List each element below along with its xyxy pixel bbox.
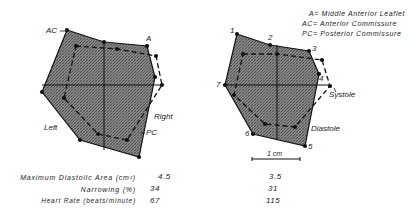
label-point-3: 3 [312, 45, 316, 53]
label-point-6: 6 [245, 130, 249, 138]
right-panel [223, 32, 336, 161]
vertex-dot [251, 132, 255, 136]
vertex-dot [125, 138, 129, 142]
stat-left-narrowing: 34 [150, 185, 160, 193]
scale-bar-label: 1 cm [267, 150, 282, 157]
vertex-dot [78, 138, 82, 142]
vertex-dot [223, 83, 227, 87]
vertex-dot [102, 40, 106, 44]
diastole-outline-left [42, 30, 155, 157]
vertex-dot [303, 144, 307, 148]
stat-right-area: 3.5 [269, 173, 282, 181]
vertex-dot [268, 43, 272, 47]
label-systole: Systole [329, 91, 355, 99]
vertex-dot [137, 155, 141, 159]
vertex-dot [241, 52, 245, 56]
stat-left-area: 4.5 [158, 173, 171, 181]
stat-label-narrowing: Narrowing (%) [81, 186, 136, 193]
label-right: Right [154, 113, 173, 121]
vertex-dot [160, 83, 164, 87]
vertex-dot [115, 47, 119, 51]
left-panel [40, 28, 164, 159]
vertex-dot [320, 58, 324, 62]
stat-left-heart-rate: 67 [150, 197, 160, 205]
label-left: Left [44, 124, 57, 132]
legend-pc: PC= Posterior Commissure [302, 30, 401, 37]
vertex-dot [263, 122, 267, 126]
vertex-dot [154, 54, 158, 58]
vertex-dot [232, 93, 236, 97]
vertex-dot [62, 96, 66, 100]
vertex-dot [65, 28, 69, 32]
stat-right-heart-rate: 115 [266, 197, 280, 205]
vertex-dot [96, 132, 100, 136]
stat-label-heart-rate: Heart Rate (beats/minute) [41, 198, 136, 205]
vertex-dot [74, 44, 78, 48]
scale-bar [252, 157, 300, 161]
vertex-dot [328, 84, 332, 88]
stat-label-area: Maximum Diastolic Area (cm²) [20, 174, 136, 181]
legend-ac: AC= Anterior Commissure [302, 20, 397, 27]
vertex-dot [153, 75, 157, 79]
label-point-7: 7 [216, 81, 220, 89]
label-diastole: Diastole [311, 125, 340, 133]
vertex-dot [293, 125, 297, 129]
vertex-dot [235, 32, 239, 36]
label-ac: AC [46, 27, 57, 35]
legend-a: A= Middle Anterior Leaflet [309, 10, 405, 17]
label-a: A [146, 35, 151, 43]
label-pc: PC [146, 129, 157, 137]
vertex-dot [40, 90, 44, 94]
label-point-1: 1 [230, 27, 234, 35]
vertex-dot [307, 49, 311, 53]
vertex-dot [275, 52, 279, 56]
label-point-5: 5 [308, 143, 312, 151]
label-point-4: 4 [319, 75, 323, 83]
label-point-2: 2 [268, 34, 272, 42]
diastole-outline-right [225, 34, 319, 146]
stat-right-narrowing: 31 [268, 185, 278, 193]
vertex-dot [145, 44, 149, 48]
